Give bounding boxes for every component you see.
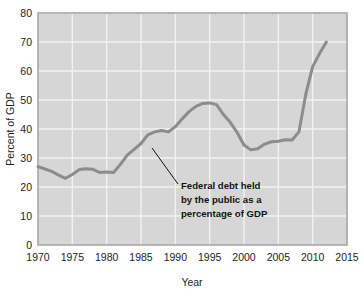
y-tick-label: 60: [20, 65, 32, 77]
y-tick-label: 20: [20, 181, 32, 193]
x-tick-label: 1980: [95, 251, 119, 263]
x-tick-label: 1975: [61, 251, 85, 263]
y-tick-label: 10: [20, 210, 32, 222]
x-tick-label: 1990: [164, 251, 188, 263]
x-axis-tick-labels: 1970197519801985199019952000200520102015: [26, 251, 359, 263]
x-tick-label: 2010: [301, 251, 325, 263]
y-tick-label: 70: [20, 36, 32, 48]
annotation-line-3: percentage of GDP: [181, 208, 268, 219]
y-tick-label: 40: [20, 123, 32, 135]
y-tick-label: 0: [26, 239, 32, 251]
y-axis-tick-labels: 80706050403020100: [20, 7, 32, 251]
x-tick-label: 2005: [267, 251, 291, 263]
annotation-line-1: Federal debt held: [181, 180, 261, 191]
x-tick-label: 1970: [26, 251, 50, 263]
x-tick-label: 1985: [129, 251, 153, 263]
x-tick-label: 2000: [232, 251, 256, 263]
y-tick-label: 30: [20, 152, 32, 164]
debt-to-gdp-line-chart: 80706050403020100 1970197519801985199019…: [0, 0, 362, 293]
y-axis-title: Percent of GDP: [4, 92, 16, 166]
chart-figure: 80706050403020100 1970197519801985199019…: [0, 0, 362, 293]
y-tick-label: 50: [20, 94, 32, 106]
x-axis-title: Year: [181, 276, 203, 288]
x-tick-label: 2015: [335, 251, 359, 263]
annotation-line-2: by the public as a: [181, 194, 262, 205]
x-tick-label: 1995: [198, 251, 222, 263]
y-tick-label: 80: [20, 7, 32, 19]
